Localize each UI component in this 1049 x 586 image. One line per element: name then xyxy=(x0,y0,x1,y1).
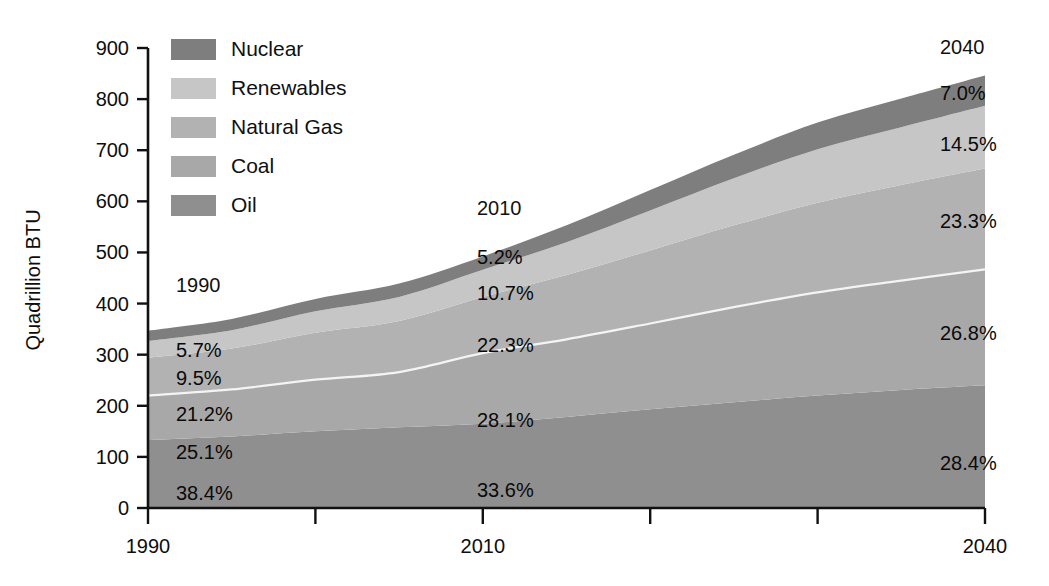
x-tick-label: 2010 xyxy=(461,535,506,557)
y-axis-title: Quadrillion BTU xyxy=(22,209,44,350)
y-tick-label: 900 xyxy=(96,37,129,59)
y-tick-label: 300 xyxy=(96,344,129,366)
legend-item-natural-gas[interactable]: Natural Gas xyxy=(171,115,343,138)
chart-svg: 0100200300400500600700800900 19902010204… xyxy=(0,0,1049,586)
y-tick-label: 400 xyxy=(96,293,129,315)
annotation-pct-2010-oil: 33.6% xyxy=(477,479,534,501)
legend-swatch-renewables xyxy=(171,78,216,99)
annotation-pct-2010-natural-gas: 22.3% xyxy=(477,334,534,356)
annotation-pct-2010-nuclear: 5.2% xyxy=(477,246,523,268)
legend-item-renewables[interactable]: Renewables xyxy=(171,76,347,99)
annotation-pct-2010-renewables: 10.7% xyxy=(477,282,534,304)
x-tick-label: 2040 xyxy=(963,535,1008,557)
legend-swatch-oil xyxy=(171,195,216,216)
annotation-pct-1990-coal: 25.1% xyxy=(176,441,233,463)
legend-swatch-coal xyxy=(171,156,216,177)
legend-label-renewables: Renewables xyxy=(231,76,347,99)
legend-item-nuclear[interactable]: Nuclear xyxy=(171,37,303,60)
legend-label-nuclear: Nuclear xyxy=(231,37,303,60)
annotation-pct-2040-coal: 26.8% xyxy=(940,322,997,344)
y-tick-label: 600 xyxy=(96,190,129,212)
annotation-pct-1990-natural-gas: 21.2% xyxy=(176,403,233,425)
legend-label-coal: Coal xyxy=(231,154,274,177)
annotation-pct-2040-renewables: 14.5% xyxy=(940,133,997,155)
annotation-year-2040: 2040 xyxy=(940,36,985,58)
y-tick-label: 200 xyxy=(96,395,129,417)
annotation-pct-2040-oil: 28.4% xyxy=(940,452,997,474)
stacked-area-chart: 0100200300400500600700800900 19902010204… xyxy=(0,0,1049,586)
legend-swatch-natural-gas xyxy=(171,117,216,138)
annotation-pct-1990-oil: 38.4% xyxy=(176,482,233,504)
annotation-pct-1990-nuclear: 5.7% xyxy=(176,339,222,361)
legend-item-oil[interactable]: Oil xyxy=(171,193,257,216)
annotation-pct-1990-renewables: 9.5% xyxy=(176,367,222,389)
annotation-pct-2040-natural-gas: 23.3% xyxy=(940,210,997,232)
annotation-pct-2010-coal: 28.1% xyxy=(477,409,534,431)
y-tick-label: 100 xyxy=(96,446,129,468)
legend-swatch-nuclear xyxy=(171,39,216,60)
legend-label-oil: Oil xyxy=(231,193,257,216)
legend-label-natural-gas: Natural Gas xyxy=(231,115,343,138)
y-tick-label: 800 xyxy=(96,88,129,110)
y-tick-label: 700 xyxy=(96,139,129,161)
y-tick-label: 500 xyxy=(96,241,129,263)
annotation-year-1990: 1990 xyxy=(176,274,221,296)
x-tick-label: 1990 xyxy=(126,535,171,557)
annotation-year-2010: 2010 xyxy=(477,197,522,219)
y-tick-label: 0 xyxy=(118,497,129,519)
annotation-pct-2040-nuclear: 7.0% xyxy=(940,82,986,104)
